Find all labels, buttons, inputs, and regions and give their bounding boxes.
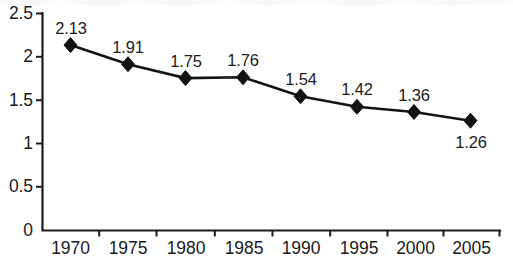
data-point-label: 1.26 xyxy=(441,134,501,151)
data-point-marker xyxy=(408,105,421,120)
y-axis-tick-label: 0.5 xyxy=(0,178,33,196)
x-axis-tick-label: 2005 xyxy=(443,240,500,258)
y-axis-tick-label: 2.5 xyxy=(0,5,33,23)
data-point-label: 1.76 xyxy=(213,52,273,69)
chart-plot-area xyxy=(0,0,513,263)
data-point-label: 1.75 xyxy=(156,53,216,70)
y-axis-tick-label: 0 xyxy=(0,222,33,240)
x-axis-tick-label: 1970 xyxy=(42,240,99,258)
y-axis-tick-label: 1 xyxy=(0,135,33,153)
line-chart-figure: 2.5 2 1.5 1 0.5 0 1970 1975 1980 1985 19… xyxy=(0,0,513,263)
data-point-marker xyxy=(237,70,250,85)
data-point-marker xyxy=(179,71,192,86)
data-point-marker xyxy=(464,113,477,128)
x-axis-tick-label: 1975 xyxy=(99,240,157,258)
y-axis-tick-label: 1.5 xyxy=(0,92,33,110)
data-point-label: 1.36 xyxy=(384,87,444,104)
data-point-label: 1.91 xyxy=(98,39,158,56)
data-point-label: 2.13 xyxy=(41,20,101,37)
x-axis-tick-label: 2000 xyxy=(387,240,444,258)
data-point-marker xyxy=(64,38,77,53)
x-axis-tick-label: 1985 xyxy=(215,240,273,258)
y-axis-ticks xyxy=(36,14,42,187)
x-axis-tick-label: 1990 xyxy=(272,240,330,258)
data-point-label: 1.54 xyxy=(271,71,331,88)
data-point-marker xyxy=(294,89,307,104)
data-point-label: 1.42 xyxy=(327,81,387,98)
x-axis-tick-label: 1995 xyxy=(330,240,388,258)
data-point-marker xyxy=(351,99,364,114)
x-axis-tick-label: 1980 xyxy=(157,240,215,258)
y-axis-tick-label: 2 xyxy=(0,48,33,66)
data-point-marker xyxy=(122,57,135,72)
